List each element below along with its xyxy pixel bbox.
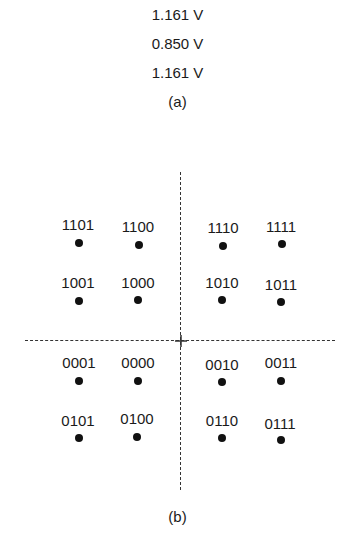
- point-dot-icon: [219, 242, 227, 250]
- point-label: 0101: [53, 413, 103, 429]
- point-label: 0010: [197, 357, 247, 373]
- voltage-level-1: 1.161 V: [0, 6, 355, 24]
- caption-b: (b): [0, 508, 355, 526]
- point-dot-icon: [277, 436, 285, 444]
- point-dot-icon: [278, 240, 286, 248]
- point-dot-icon: [218, 434, 226, 442]
- point-label: 0001: [54, 355, 104, 371]
- point-label: 0011: [256, 355, 306, 371]
- point-label: 1010: [197, 275, 247, 291]
- point-dot-icon: [135, 241, 143, 249]
- point-dot-icon: [277, 298, 285, 306]
- point-dot-icon: [218, 378, 226, 386]
- point-label: 0000: [113, 355, 163, 371]
- point-label: 1100: [113, 219, 163, 235]
- point-dot-icon: [75, 377, 83, 385]
- point-label: 0111: [255, 416, 305, 432]
- point-label: 0110: [197, 413, 247, 429]
- point-dot-icon: [75, 239, 83, 247]
- point-label: 1101: [53, 217, 103, 233]
- point-dot-icon: [75, 297, 83, 305]
- point-label: 0100: [112, 411, 162, 427]
- point-dot-icon: [75, 434, 83, 442]
- point-dot-icon: [134, 377, 142, 385]
- voltage-level-3: 1.161 V: [0, 64, 355, 82]
- point-label: 1110: [198, 220, 248, 236]
- point-dot-icon: [218, 296, 226, 304]
- point-label: 1111: [256, 219, 306, 235]
- point-dot-icon: [134, 296, 142, 304]
- point-dot-icon: [277, 377, 285, 385]
- point-dot-icon: [133, 433, 141, 441]
- vertical-axis: [180, 172, 181, 490]
- caption-a: (a): [0, 93, 355, 111]
- point-label: 1011: [256, 277, 306, 293]
- origin-cross-icon: [175, 335, 187, 347]
- point-label: 1001: [53, 275, 103, 291]
- voltage-level-2: 0.850 V: [0, 35, 355, 53]
- point-label: 1000: [113, 275, 163, 291]
